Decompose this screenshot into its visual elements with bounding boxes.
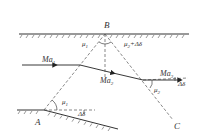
angle-arcs xyxy=(52,42,175,114)
point-B-label: B xyxy=(104,20,110,30)
mu2-right-label: μ2 xyxy=(154,86,161,95)
expansion-wave-AB xyxy=(44,34,105,110)
mu2-top-label: μ2+Δδ xyxy=(124,40,143,49)
point-A-label: A xyxy=(34,117,41,127)
lower-wall xyxy=(17,110,118,131)
delta-right-label: Δδ xyxy=(177,80,186,88)
mu1-bottom-label: μ1 xyxy=(62,98,68,107)
delta-bottom-label: Δδ xyxy=(77,110,86,118)
point-C-label: C xyxy=(174,121,181,131)
ma3-label: Ma3 xyxy=(159,69,174,79)
flow-diagram: B A C Ma1 Ma2 Ma3 μ1 μ2+Δδ μ1 Δδ μ2 Δδ xyxy=(0,0,200,140)
ma1-label: Ma1 xyxy=(41,55,55,65)
mu1-top-label: μ1 xyxy=(82,40,88,49)
upper-wall xyxy=(19,34,189,38)
ma2-label: Ma2 xyxy=(99,76,114,86)
